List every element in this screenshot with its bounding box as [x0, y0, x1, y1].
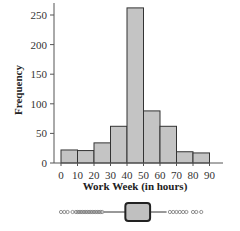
y-axis-ticks: 050100150200250	[31, 9, 55, 169]
histogram-bar	[144, 111, 161, 163]
x-tick-label: 0	[58, 169, 64, 181]
boxplot-outlier	[63, 210, 66, 213]
histogram-bar	[193, 153, 210, 163]
histogram-chart: 050100150200250 0102030405060708090 Freq…	[0, 0, 240, 231]
boxplot-outlier	[172, 210, 175, 213]
boxplot-outlier	[200, 210, 203, 213]
x-tick-label: 90	[204, 169, 216, 181]
y-tick-label: 250	[31, 9, 48, 21]
boxplot-outlier	[66, 210, 69, 213]
y-tick-label: 150	[31, 68, 48, 80]
x-axis-ticks: 0102030405060708090	[58, 163, 215, 181]
x-axis-title: Work Week (in hours)	[83, 180, 188, 193]
y-tick-label: 200	[31, 39, 48, 51]
boxplot-outlier	[178, 210, 181, 213]
y-tick-label: 50	[36, 127, 48, 139]
boxplot-outlier	[182, 210, 185, 213]
histogram-bar	[94, 143, 111, 163]
boxplot-outlier	[195, 210, 198, 213]
histogram-bar	[127, 8, 144, 163]
boxplot-outlier	[185, 210, 188, 213]
x-tick-label: 80	[188, 169, 200, 181]
y-tick-label: 0	[42, 157, 48, 169]
histogram-bar	[78, 151, 95, 163]
histogram-bar	[177, 152, 194, 163]
histogram-bars	[61, 8, 210, 163]
boxplot-outlier	[175, 210, 178, 213]
y-tick-label: 100	[31, 98, 48, 110]
histogram-bar	[160, 126, 177, 163]
boxplot-outlier	[168, 210, 171, 213]
boxplot-outlier	[191, 210, 194, 213]
boxplot-outlier	[59, 210, 62, 213]
histogram-bar	[61, 150, 78, 163]
boxplot	[59, 203, 202, 221]
boxplot-box	[125, 203, 150, 221]
histogram-bar	[111, 126, 128, 163]
y-axis-title: Frequency	[12, 65, 24, 115]
boxplot-outlier	[71, 210, 74, 213]
